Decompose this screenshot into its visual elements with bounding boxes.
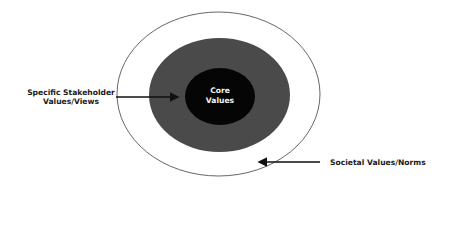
societal-values-label: Societal Values/Norms xyxy=(330,158,426,167)
stakeholder-values-label: Specific Stakeholder Values/Views xyxy=(24,88,118,106)
stakeholder-label-line1: Specific Stakeholder xyxy=(24,88,118,97)
stakeholder-label-line2: Values/Views xyxy=(24,97,118,106)
societal-label-text: Societal Values/Norms xyxy=(330,158,426,167)
core-values-label: Core Values xyxy=(200,86,240,106)
core-values-line2: Values xyxy=(200,96,240,106)
core-values-line1: Core xyxy=(200,86,240,96)
